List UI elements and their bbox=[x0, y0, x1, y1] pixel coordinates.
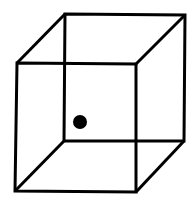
edge-top-right bbox=[136, 15, 185, 64]
necker-cube-diagram bbox=[0, 0, 195, 211]
edge-bottom-right bbox=[136, 141, 184, 192]
dot-marker bbox=[73, 115, 87, 129]
edge-top-left bbox=[17, 14, 65, 63]
edge-bottom-left bbox=[15, 141, 64, 191]
cube-wireframe bbox=[15, 14, 185, 192]
